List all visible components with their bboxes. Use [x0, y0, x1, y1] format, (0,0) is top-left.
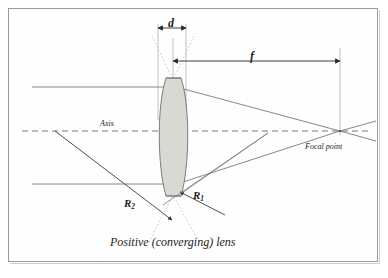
- incoming-rays: [32, 87, 166, 184]
- label-thickness-d: d: [168, 17, 174, 29]
- r2-arrow: [55, 131, 172, 220]
- label-focal-point: Focal point: [305, 143, 342, 151]
- dotted-top-right: [173, 36, 194, 80]
- label-focal-length-f: f: [250, 50, 254, 62]
- figure-page: d f Axis Focal point R1 R2 Positive (con…: [0, 0, 388, 278]
- focal-point-dot: [339, 130, 341, 132]
- label-radius-2-subscript: 2: [131, 202, 135, 211]
- diverging-ray-upper: [340, 131, 376, 141]
- label-axis: Axis: [100, 120, 114, 128]
- figure-caption: Positive (converging) lens: [110, 236, 236, 248]
- label-radius-1: R1: [193, 190, 204, 203]
- label-radius-2: R2: [124, 198, 135, 211]
- refracted-ray-upper: [180, 88, 340, 131]
- refracted-rays: [180, 88, 376, 183]
- dotted-top-left: [152, 36, 173, 80]
- lens-body: [159, 78, 188, 196]
- label-radius-1-subscript: 1: [200, 194, 204, 203]
- diverging-ray-lower: [340, 121, 376, 131]
- lens-shape: [159, 78, 188, 196]
